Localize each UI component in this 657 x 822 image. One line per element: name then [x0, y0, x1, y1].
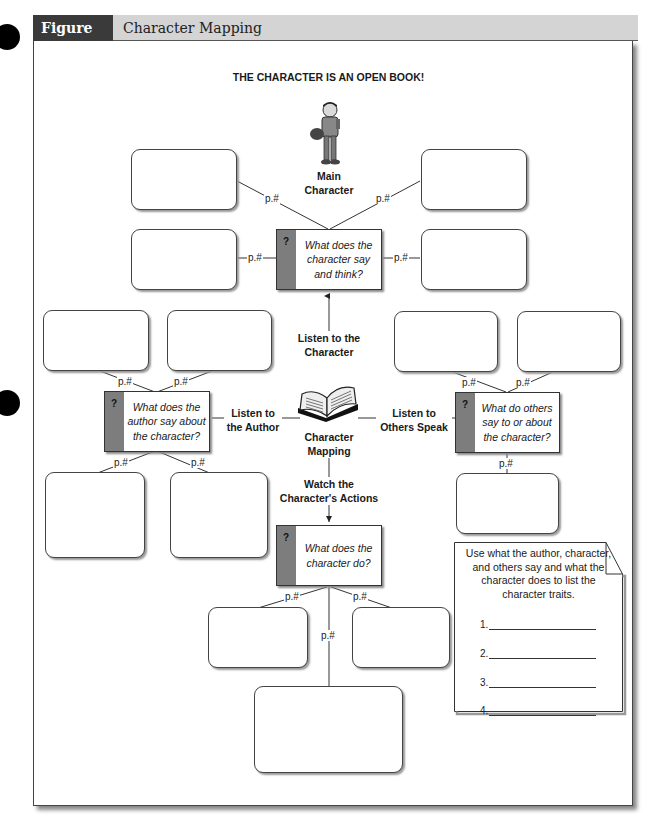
trait-number: 2. — [480, 648, 488, 659]
main-character-label: Main Character — [296, 169, 362, 197]
answer-box-top-left[interactable] — [131, 149, 237, 210]
page-ref-left-4: p.# — [190, 457, 206, 468]
answer-box-bottom-center[interactable] — [254, 686, 403, 773]
answer-box-right-top-1[interactable] — [394, 311, 498, 372]
open-book-figure — [296, 382, 360, 422]
page-ref-bottom-2: p.# — [352, 591, 368, 602]
question-mark-icon: ? — [462, 399, 468, 410]
book-label-character-mapping: Character Mapping — [296, 430, 362, 458]
page-ref-left-2: p.# — [173, 376, 189, 387]
question-mark-icon: ? — [283, 236, 289, 247]
question-text: What does the character do? — [299, 526, 378, 585]
branch-label-listen-author: Listen to the Author — [224, 406, 282, 434]
open-book-icon — [296, 382, 360, 422]
answer-box-top-right-2[interactable] — [421, 229, 527, 290]
branch-label-listen-character: Listen to the Character — [290, 331, 368, 359]
trait-line-3[interactable]: 3. — [480, 677, 596, 688]
page-ref-right-3: p.# — [498, 458, 514, 469]
note-instructions: Use what the author, character, and othe… — [458, 547, 619, 602]
page-ref-right-2: p.# — [515, 377, 531, 388]
answer-box-right-bottom[interactable] — [456, 473, 559, 534]
answer-box-left-top-1[interactable] — [43, 310, 149, 371]
page-ref-right-1: p.# — [461, 377, 477, 388]
page-ref-top-left: p.# — [264, 193, 280, 204]
question-text: What does the character say and think? — [299, 230, 378, 289]
page-ref-top-left-2: p.# — [247, 252, 263, 263]
question-card-say-think: ? What does the character say and think? — [276, 229, 382, 290]
trait-line-2[interactable]: 2. — [480, 648, 596, 659]
question-card-actions: ? What does the character do? — [276, 525, 382, 586]
character-traits-note: Use what the author, character, and othe… — [454, 542, 623, 712]
answer-box-bottom-right[interactable] — [352, 607, 450, 668]
answer-box-left-bottom-2[interactable] — [170, 472, 268, 558]
page-ref-left-3: p.# — [113, 457, 129, 468]
trait-number: 4. — [480, 705, 488, 716]
trait-number: 1. — [480, 619, 488, 630]
answer-box-right-top-2[interactable] — [517, 311, 621, 372]
main-character-figure — [306, 100, 352, 168]
question-card-others: ? What do others say to or about the cha… — [455, 392, 560, 453]
question-text: What does the author say about the chara… — [127, 392, 206, 451]
trait-line-1[interactable]: 1. — [480, 619, 596, 630]
trait-line-4[interactable]: 4. — [480, 705, 596, 716]
page-ref-top-right: p.# — [375, 193, 391, 204]
answer-box-left-bottom-1[interactable] — [45, 472, 145, 558]
boy-icon — [306, 100, 352, 168]
branch-label-listen-others: Listen to Others Speak — [376, 406, 452, 434]
answer-box-top-right[interactable] — [421, 149, 527, 210]
branch-label-watch-actions: Watch the Character's Actions — [276, 477, 382, 505]
page-ref-top-right-2: p.# — [393, 252, 409, 263]
question-mark-icon: ? — [111, 398, 117, 409]
question-card-author: ? What does the author say about the cha… — [104, 391, 210, 452]
answer-box-left-top-2[interactable] — [167, 310, 272, 371]
trait-number: 3. — [480, 677, 488, 688]
page-ref-left-1: p.# — [117, 376, 133, 387]
page-ref-bottom-1: p.# — [284, 591, 300, 602]
answer-box-top-left-2[interactable] — [131, 229, 237, 290]
answer-box-bottom-left[interactable] — [208, 607, 308, 668]
page-ref-bottom-3: p.# — [320, 630, 336, 641]
question-text: What do others say to or about the chara… — [478, 393, 556, 452]
question-mark-icon: ? — [283, 532, 289, 543]
